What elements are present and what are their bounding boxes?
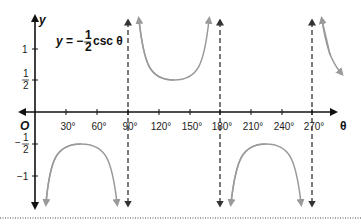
y-tick-labels: 1 1 2 − 1 2 −1 — [15, 44, 29, 182]
branch-4 — [322, 20, 341, 73]
equation-label: y = − 1 2 csc θ — [55, 28, 123, 54]
svg-text:90°: 90° — [122, 121, 137, 132]
svg-text:1: 1 — [22, 44, 28, 55]
branch-3 — [231, 144, 301, 203]
svg-text:180°: 180° — [212, 121, 233, 132]
svg-text:1: 1 — [23, 132, 29, 143]
branch-2 — [139, 20, 209, 80]
svg-text:210°: 210° — [243, 121, 264, 132]
svg-text:1: 1 — [23, 68, 29, 79]
svg-text:120°: 120° — [151, 121, 172, 132]
svg-text:150°: 150° — [182, 121, 203, 132]
svg-text:2: 2 — [23, 144, 29, 155]
x-tick-labels: 30° 60° 90° 120° 150° 180° 210° 240° 270… — [60, 121, 324, 132]
origin-label: O — [20, 119, 30, 133]
svg-text:−1: −1 — [17, 171, 29, 182]
svg-text:csc θ: csc θ — [93, 34, 123, 48]
svg-text:60°: 60° — [91, 121, 106, 132]
svg-text:240°: 240° — [274, 121, 295, 132]
svg-text:30°: 30° — [60, 121, 75, 132]
svg-text:2: 2 — [85, 40, 92, 54]
svg-text:2: 2 — [23, 80, 29, 91]
svg-text:y = −: y = − — [55, 34, 83, 48]
svg-text:−: − — [15, 137, 21, 148]
svg-text:270°: 270° — [304, 121, 325, 132]
x-axis-label: θ — [340, 119, 347, 133]
y-axis-label: y — [38, 13, 47, 27]
csc-graph: 30° 60° 90° 120° 150° 180° 210° 240° 270… — [0, 0, 361, 224]
branch-1 — [46, 144, 117, 203]
